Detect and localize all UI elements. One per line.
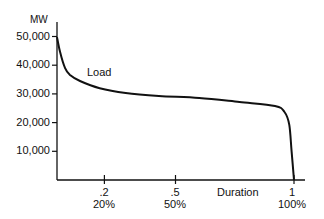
x-tick-label-1: 1	[272, 186, 312, 198]
y-ticks	[52, 37, 57, 152]
x-tick-sublabel-20pct: 20%	[84, 198, 124, 210]
curve-annotation-load: Load	[87, 66, 111, 78]
y-tick-label-20000: 20,000	[0, 116, 50, 128]
y-tick-label-50000: 50,000	[0, 30, 50, 42]
x-tick-label-02: .2	[84, 186, 124, 198]
x-tick-sublabel-50pct: 50%	[155, 198, 195, 210]
x-tick-sublabel-100pct: 100%	[272, 198, 312, 210]
x-axis-title: Duration	[217, 186, 259, 198]
y-axis-unit-label: MW	[30, 14, 48, 26]
y-tick-label-10000: 10,000	[0, 144, 50, 156]
y-tick-label-40000: 40,000	[0, 58, 50, 70]
load-curve	[57, 37, 294, 180]
y-tick-label-30000: 30,000	[0, 87, 50, 99]
x-tick-label-05: .5	[155, 186, 195, 198]
